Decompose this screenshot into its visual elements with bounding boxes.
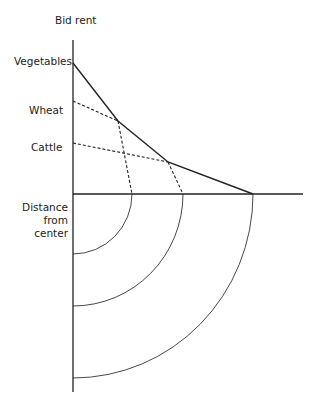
cattle-dashed [73,143,168,162]
ring-wheat [73,194,183,306]
ring-vegetables [73,194,132,254]
bid-rent-diagram [0,0,318,413]
wheat-dashed-left [73,101,118,121]
ring-cattle [73,194,253,378]
bid-rent-envelope [73,63,253,194]
vegetables-dashed [118,121,132,194]
